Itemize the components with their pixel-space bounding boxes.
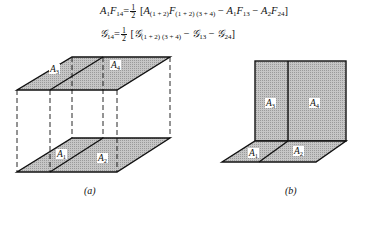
label-a2-fig-b: A2 [293, 146, 304, 156]
figure-a [17, 57, 170, 172]
bottom-plane-a [17, 138, 170, 172]
label-a3-fig-b: A3 [265, 98, 276, 108]
label-sub: 2 [104, 157, 107, 164]
caption-b: (b) [285, 185, 297, 196]
label-sub: 3 [272, 102, 275, 109]
label-sub: 1 [255, 152, 258, 159]
top-plane-a [17, 57, 170, 90]
label-a2-fig-a: A2 [97, 153, 108, 163]
caption-a: (a) [84, 185, 96, 196]
label-a4-fig-b: A4 [309, 98, 320, 108]
label-a4-fig-a: A4 [110, 60, 121, 70]
label-sub: 2 [300, 150, 303, 157]
label-sub: 4 [117, 64, 120, 71]
label-a1-fig-a: A1 [56, 149, 67, 159]
label-sub: 3 [56, 68, 59, 75]
label-sub: 1 [63, 153, 66, 160]
label-a1-fig-b: A1 [248, 148, 259, 158]
figure-b [222, 61, 346, 162]
label-sub: 4 [316, 102, 319, 109]
label-a3-fig-a: A3 [49, 64, 60, 74]
